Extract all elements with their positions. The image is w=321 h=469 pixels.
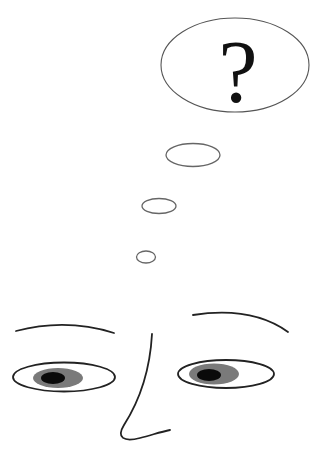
- question-mark-icon: ?: [218, 23, 257, 120]
- trail-bubble-small: [137, 251, 156, 263]
- nose: [121, 334, 170, 439]
- left-eyebrow: [16, 325, 114, 333]
- right-eye: [178, 360, 274, 388]
- face: [13, 313, 288, 440]
- confused-face-illustration: ?: [0, 0, 321, 469]
- left-eye: [13, 363, 115, 392]
- right-eyebrow: [193, 313, 288, 332]
- trail-bubble-large: [166, 144, 220, 167]
- thought-bubble: ?: [161, 18, 309, 120]
- thought-trail: [137, 144, 221, 264]
- right-pupil: [197, 369, 221, 381]
- left-pupil: [41, 372, 65, 384]
- trail-bubble-medium: [142, 199, 176, 214]
